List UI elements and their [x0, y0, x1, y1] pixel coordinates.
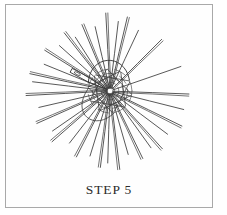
- spoke-group: [26, 13, 189, 170]
- woven-wheel-illustration: [6, 5, 212, 173]
- spoke-thread: [52, 93, 108, 142]
- spoke-thread: [69, 93, 108, 143]
- step-caption: STEP 5: [86, 182, 133, 198]
- caption-area: STEP 5: [6, 173, 212, 207]
- figure-card: STEP 5: [5, 4, 213, 208]
- spoke-thread: [111, 30, 138, 88]
- illustration-area: [6, 5, 212, 173]
- spoke-thread-pair: [112, 93, 181, 128]
